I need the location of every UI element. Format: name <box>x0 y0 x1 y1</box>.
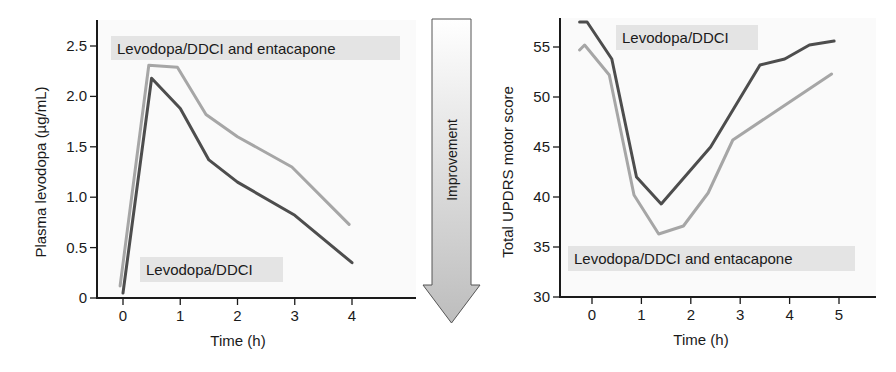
y-tick-label: 1.0 <box>66 188 87 205</box>
legend-levodopa-ddci-label: Levodopa/DDCI <box>616 25 758 50</box>
y-tick-label: 0.5 <box>66 239 87 256</box>
y-axis-label: Total UPDRS motor score <box>499 86 516 258</box>
x-tick-label: 3 <box>291 307 299 324</box>
y-tick-label: 45 <box>533 138 550 155</box>
x-tick-label: 4 <box>348 307 356 324</box>
plasma-levodopa-chart: Levodopa/DDCI and entacapone Levodopa/DD… <box>32 20 416 349</box>
updrs-motor-score-chart: Levodopa/DDCI Levodopa/DDCI and entacapo… <box>499 18 876 348</box>
y-tick-label: 35 <box>533 238 550 255</box>
plot-background <box>98 20 416 298</box>
x-tick-label: 2 <box>233 307 241 324</box>
legend-text: Levodopa/DDCI <box>622 29 729 46</box>
y-tick-label: 50 <box>533 88 550 105</box>
y-tick-label: 30 <box>533 288 550 305</box>
legend-levodopa-ddci-label: Levodopa/DDCI <box>140 257 283 282</box>
y-tick-label: 2.0 <box>66 87 87 104</box>
improvement-label: Improvement <box>444 119 460 201</box>
y-tick-label: 1.5 <box>66 138 87 155</box>
x-tick-label: 5 <box>835 306 843 323</box>
x-tick-label: 2 <box>687 306 695 323</box>
x-axis-label: Time (h) <box>673 331 728 348</box>
y-axis-label: Plasma levodopa (µg/mL) <box>32 86 49 257</box>
y-tick-label: 2.5 <box>66 37 87 54</box>
x-tick-label: 4 <box>785 306 793 323</box>
y-tick-label: 55 <box>533 38 550 55</box>
x-tick-label: 0 <box>588 306 596 323</box>
legend-text: Levodopa/DDCI and entacapone <box>574 250 793 267</box>
x-axis-label: Time (h) <box>210 332 265 349</box>
improvement-arrow-icon: Improvement <box>423 19 480 323</box>
x-tick-label: 3 <box>736 306 744 323</box>
y-tick-label: 40 <box>533 188 550 205</box>
figure-canvas: Levodopa/DDCI and entacapone Levodopa/DD… <box>0 0 896 372</box>
y-tick-label: 0 <box>79 289 87 306</box>
x-tick-label: 0 <box>119 307 127 324</box>
legend-text: Levodopa/DDCI and entacapone <box>117 40 336 57</box>
x-tick-label: 1 <box>176 307 184 324</box>
legend-entacapone-label: Levodopa/DDCI and entacapone <box>568 246 855 271</box>
legend-entacapone-label: Levodopa/DDCI and entacapone <box>111 36 400 60</box>
legend-text: Levodopa/DDCI <box>146 261 253 278</box>
x-tick-label: 1 <box>637 306 645 323</box>
